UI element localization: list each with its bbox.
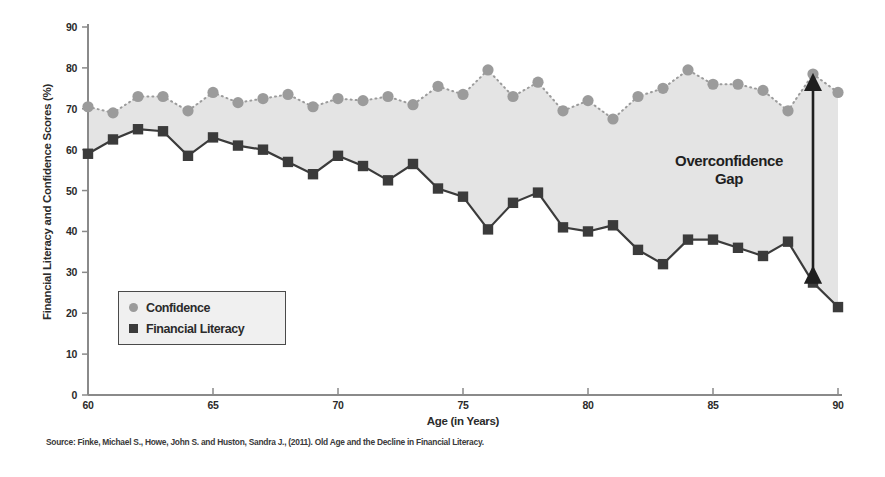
annotation-line-1: Overconfidence: [675, 152, 783, 169]
legend-label-confidence: Confidence: [146, 301, 210, 315]
svg-text:90: 90: [66, 21, 78, 33]
svg-text:0: 0: [71, 389, 77, 401]
svg-text:70: 70: [332, 399, 344, 411]
svg-text:70: 70: [66, 103, 78, 115]
svg-text:80: 80: [582, 399, 594, 411]
svg-text:20: 20: [66, 307, 78, 319]
svg-text:60: 60: [82, 399, 94, 411]
annotation-line-2: Gap: [715, 170, 743, 187]
legend-label-financial-literacy: Financial Literacy: [146, 322, 244, 336]
svg-text:50: 50: [66, 185, 78, 197]
svg-text:80: 80: [66, 62, 78, 74]
overconfidence-gap-label: Overconfidence Gap: [648, 152, 810, 188]
legend-item-financial-literacy: Financial Literacy: [129, 318, 285, 339]
svg-text:65: 65: [207, 399, 219, 411]
svg-text:90: 90: [832, 399, 844, 411]
y-axis-title: Financial Literacy and Confidence Scores…: [41, 37, 53, 367]
y-axis-ticks: 0102030405060708090: [66, 21, 88, 401]
legend-marker-circle-icon: [129, 303, 138, 312]
svg-text:10: 10: [66, 348, 78, 360]
source-note: Source: Finke, Michael S., Howe, John S.…: [46, 437, 484, 447]
x-axis-title: Age (in Years): [88, 415, 838, 427]
legend-item-confidence: Confidence: [129, 297, 285, 318]
chart-plot-area: 60657075808590 0102030405060708090: [0, 0, 885, 477]
chart-figure: 60657075808590 0102030405060708090 Finan…: [0, 0, 885, 477]
chart-legend: Confidence Financial Literacy: [118, 291, 286, 345]
overconfidence-gap-fill: [88, 70, 838, 307]
svg-text:85: 85: [707, 399, 719, 411]
legend-marker-square-icon: [129, 324, 138, 333]
svg-text:75: 75: [457, 399, 469, 411]
x-axis-ticks: 60657075808590: [82, 388, 844, 411]
svg-text:30: 30: [66, 266, 78, 278]
svg-text:40: 40: [66, 225, 78, 237]
svg-text:60: 60: [66, 144, 78, 156]
